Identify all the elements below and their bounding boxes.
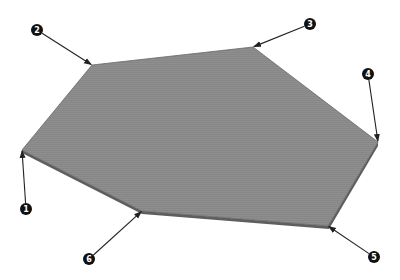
leader-arrow: [42, 33, 91, 64]
callout-number: 5: [371, 253, 377, 262]
leader-arrow: [369, 80, 378, 141]
vertex-callout-3: 3: [254, 18, 316, 47]
leader-arrow: [93, 212, 141, 255]
vertex-callout-6: 6: [83, 212, 141, 265]
callout-number: 3: [307, 20, 313, 29]
leader-arrow: [254, 26, 305, 46]
vertex-callout-5: 5: [329, 227, 380, 263]
callout-number: 4: [365, 70, 371, 79]
vertex-callout-1: 1: [20, 151, 32, 215]
vertex-callout-4: 4: [362, 68, 378, 141]
leader-arrow: [22, 151, 26, 203]
polygon-diagram: 123456: [0, 0, 400, 280]
callout-number: 2: [34, 26, 40, 35]
leader-arrow: [329, 227, 369, 254]
callout-number: 1: [23, 205, 29, 214]
polygon-face: [22, 47, 378, 226]
vertex-callout-2: 2: [31, 24, 91, 64]
callout-number: 6: [86, 255, 92, 264]
